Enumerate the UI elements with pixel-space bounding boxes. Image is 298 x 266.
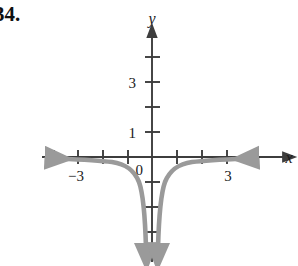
x-tick-label-3: 3 (224, 168, 232, 184)
y-tick-label-1: 1 (129, 125, 137, 141)
problem-number: 34. (0, 2, 20, 27)
y-tick-label-3: 3 (129, 75, 137, 91)
curve-left-branch (50, 158, 146, 248)
graph-figure: 34. (0, 0, 298, 266)
curve-right-branch (158, 158, 254, 248)
y-axis-label: y (146, 10, 156, 28)
x-axis-label: x (284, 149, 292, 166)
origin-label: 0 (136, 162, 144, 178)
x-tick-label-minus3: −3 (68, 168, 84, 184)
axes-group (42, 36, 284, 262)
coordinate-plane: x y 0 −3 3 1 3 (0, 0, 298, 266)
